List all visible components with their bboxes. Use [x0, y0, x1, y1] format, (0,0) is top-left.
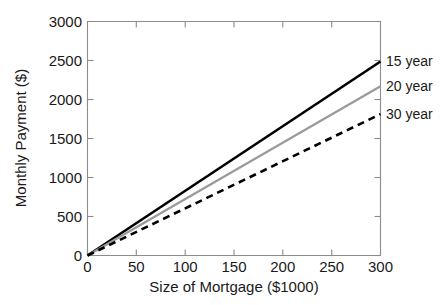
y-tick-marks: [88, 22, 94, 256]
y-tick-label-2000: 2000: [49, 91, 82, 108]
x-axis-title: Size of Mortgage ($1000): [149, 278, 318, 295]
x-tick-label-250: 250: [319, 258, 344, 275]
y-tick-label-0: 0: [74, 247, 82, 264]
x-tick-marks: [88, 250, 381, 256]
y-tick-labels: 0 500 1000 1500 2000 2500 3000: [49, 13, 82, 264]
x-tick-label-100: 100: [173, 258, 198, 275]
y-tick-label-1000: 1000: [49, 169, 82, 186]
chart-figure: 0 500 1000 1500 2000 2500 3000 0 50 100 …: [0, 0, 447, 305]
y-axis-title: Monthly Payment ($): [12, 69, 29, 207]
series-line-15-year: [88, 62, 381, 256]
y-tick-label-2500: 2500: [49, 52, 82, 69]
x-tick-labels: 0 50 100 150 200 250 300: [83, 258, 393, 275]
x-tick-label-200: 200: [270, 258, 295, 275]
axes-frame: [88, 22, 381, 256]
mortgage-payment-line-chart: 0 500 1000 1500 2000 2500 3000 0 50 100 …: [0, 0, 447, 305]
x-tick-label-0: 0: [83, 258, 91, 275]
series-label-20-year: 20 year: [386, 78, 433, 94]
right-tick-marks: [375, 22, 381, 256]
x-tick-label-300: 300: [368, 258, 393, 275]
y-tick-label-3000: 3000: [49, 13, 82, 30]
series-label-30-year: 30 year: [386, 106, 433, 122]
x-tick-label-150: 150: [221, 258, 246, 275]
top-tick-marks: [136, 22, 331, 28]
series-line-30-year: [88, 114, 381, 255]
axis-box: [88, 22, 381, 256]
series-label-15-year: 15 year: [386, 53, 433, 69]
y-tick-label-1500: 1500: [49, 130, 82, 147]
y-tick-label-500: 500: [57, 208, 82, 225]
series-line-20-year: [88, 86, 381, 255]
x-tick-label-50: 50: [128, 258, 145, 275]
